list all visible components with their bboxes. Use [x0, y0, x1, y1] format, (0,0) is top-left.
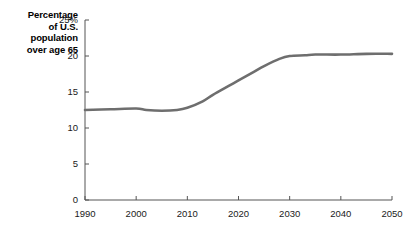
plot-area: 0510152025% 1990200020102020203020402050 [0, 0, 403, 232]
y-tick-label: 20 [67, 50, 78, 61]
y-tick-label: 5 [73, 158, 78, 169]
chart-figure: Percentage of U.S. population over age 6… [0, 0, 403, 232]
x-tick-label: 1990 [74, 208, 95, 219]
x-axis: 1990200020102020203020402050 [74, 196, 402, 219]
x-tick-label: 2050 [381, 208, 402, 219]
x-tick-label: 2000 [126, 208, 147, 219]
series-path [85, 54, 392, 111]
data-series-line [85, 54, 392, 111]
x-tick-label: 2010 [177, 208, 198, 219]
x-tick-label: 2020 [228, 208, 249, 219]
x-tick-label: 2040 [330, 208, 351, 219]
y-tick-label: 15 [67, 86, 78, 97]
x-tick-label: 2030 [279, 208, 300, 219]
y-tick-label: 25% [59, 14, 79, 25]
y-tick-label: 0 [73, 194, 78, 205]
y-tick-label: 10 [67, 122, 78, 133]
